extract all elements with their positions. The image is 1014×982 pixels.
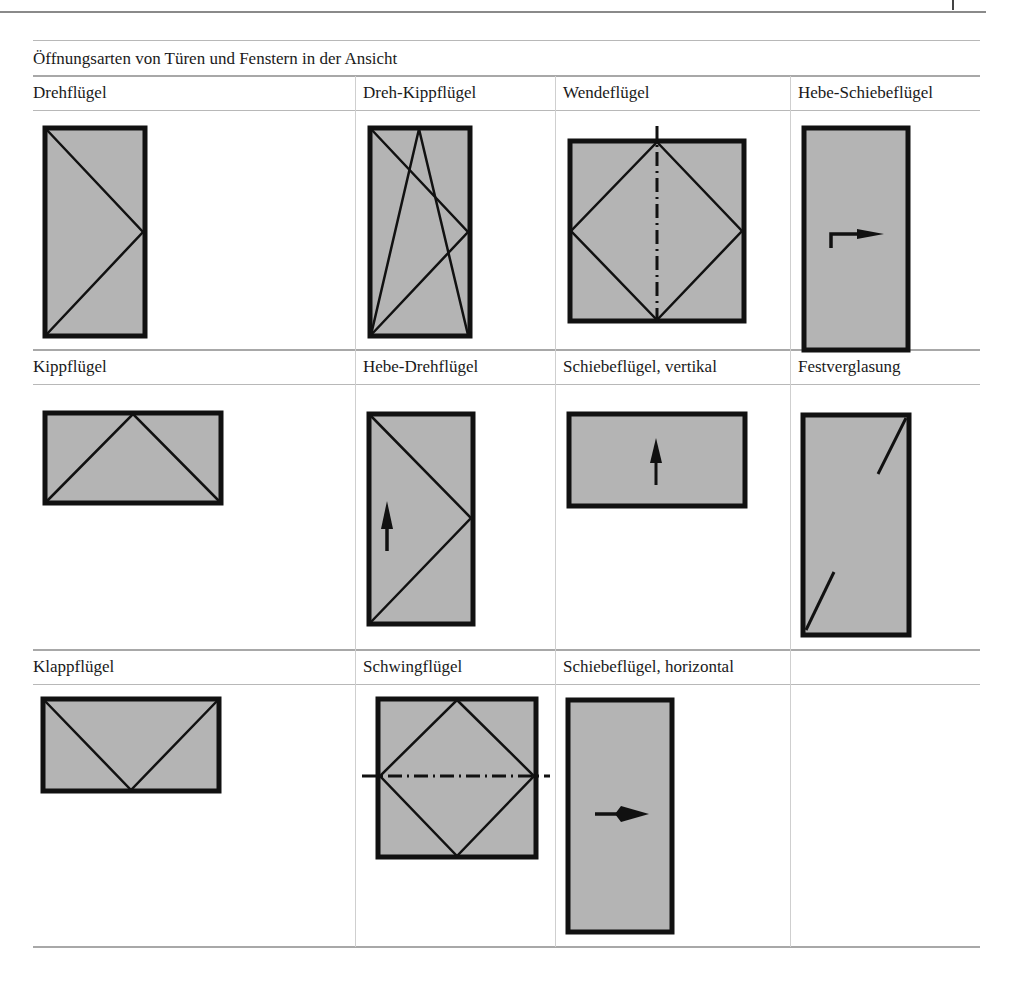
cell-label-dreh-kippfluegel: Dreh-Kippflügel (363, 83, 476, 103)
row2-header-rule (33, 384, 980, 385)
table-title: Öffnungsarten von Türen und Fenstern in … (33, 49, 397, 69)
fixed-glazing-icon (800, 412, 912, 638)
cell-label-hebe-drehfluegel: Hebe-Drehflügel (363, 357, 478, 377)
table-top-rule (33, 40, 980, 41)
cell-label-kippfluegel: Kippflügel (33, 357, 107, 377)
horizontal-slide-icon (565, 697, 675, 935)
tilt-turn-icon (367, 125, 473, 339)
row3-header-rule (33, 684, 980, 685)
table-bottom-rule (33, 946, 980, 948)
page-header-tick (952, 0, 954, 10)
cell-label-klappfluegel: Klappflügel (33, 657, 114, 677)
row1-header-rule (33, 110, 980, 111)
lift-turn-icon (366, 411, 476, 627)
cell-label-schiebefluegel-vertikal: Schiebeflügel, vertikal (563, 357, 717, 377)
column-divider-3 (790, 76, 791, 947)
horizontal-pivot-icon (362, 696, 550, 861)
page-header-rule (0, 11, 986, 13)
top-hung-icon (40, 696, 222, 794)
cell-label-schwingfluegel: Schwingflügel (363, 657, 462, 677)
bottom-hung-tilt-icon (42, 410, 224, 506)
cell-label-drehfluegel: Drehflügel (33, 83, 107, 103)
cell-label-wendefluegel: Wendeflügel (563, 83, 649, 103)
lift-slide-icon (801, 125, 913, 355)
row2-bottom-rule (33, 649, 980, 651)
cell-label-schiebefluegel-horizontal: Schiebeflügel, horizontal (563, 657, 734, 677)
cell-label-hebe-schiebefluegel: Hebe-Schiebeflügel (798, 83, 933, 103)
vertical-pivot-icon (566, 126, 748, 326)
cell-label-festverglasung: Festverglasung (798, 357, 901, 377)
side-hung-left-hinge-icon (42, 125, 148, 339)
vertical-slide-icon (566, 411, 748, 509)
title-rule (33, 75, 980, 77)
column-divider-1 (355, 76, 356, 947)
column-divider-2 (555, 76, 556, 947)
